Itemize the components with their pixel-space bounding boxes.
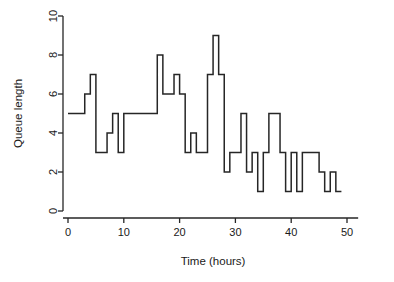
y-tick-label: 2 bbox=[47, 169, 59, 175]
step-chart-svg: 0246810 01020304050 Time (hours) Queue l… bbox=[0, 0, 394, 282]
y-tick-label: 10 bbox=[47, 10, 59, 22]
x-tick-label: 30 bbox=[229, 226, 241, 238]
y-axis-title: Queue length bbox=[12, 79, 24, 148]
y-tick-label: 0 bbox=[47, 208, 59, 214]
y-axis-tick-labels: 0246810 bbox=[47, 10, 59, 214]
x-axis-ticks bbox=[68, 218, 347, 223]
y-axis-ticks bbox=[58, 16, 63, 211]
x-axis-title: Time (hours) bbox=[181, 255, 246, 267]
x-axis-group: 01020304050 bbox=[63, 218, 358, 238]
y-tick-label: 6 bbox=[47, 91, 59, 97]
queue-length-step-line bbox=[68, 36, 341, 192]
x-axis-tick-labels: 01020304050 bbox=[65, 226, 353, 238]
x-tick-label: 40 bbox=[285, 226, 297, 238]
x-tick-label: 50 bbox=[341, 226, 353, 238]
y-tick-label: 8 bbox=[47, 52, 59, 58]
x-tick-label: 10 bbox=[118, 226, 130, 238]
x-tick-label: 0 bbox=[65, 226, 71, 238]
y-tick-label: 4 bbox=[47, 130, 59, 136]
y-axis-group: 0246810 bbox=[47, 10, 63, 214]
chart-figure: 0246810 01020304050 Time (hours) Queue l… bbox=[0, 0, 394, 282]
x-tick-label: 20 bbox=[173, 226, 185, 238]
